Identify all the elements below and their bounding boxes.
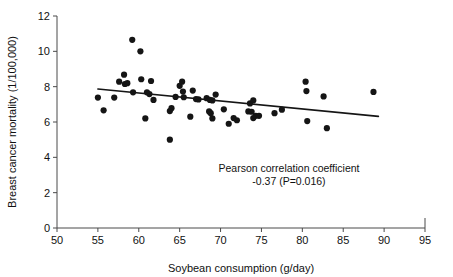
x-axis-tick-label: 85: [337, 234, 349, 246]
data-point: [180, 89, 186, 95]
x-axis-tick-label: 50: [51, 234, 63, 246]
data-point: [116, 79, 122, 85]
x-axis-tick-label: 55: [92, 234, 104, 246]
y-axis-tick-label: 0: [44, 222, 50, 234]
data-point: [121, 72, 127, 78]
x-axis-tick-label: 90: [378, 234, 390, 246]
data-point: [271, 110, 277, 116]
x-axis-tick-label: 80: [296, 234, 308, 246]
data-point: [250, 97, 256, 103]
x-axis-tick-label: 70: [214, 234, 226, 246]
scatter-plot-figure: 024681012 50556065707580859095 Soybean c…: [0, 0, 453, 277]
y-axis-tick-label: 12: [38, 10, 50, 22]
data-point: [142, 115, 148, 121]
data-point: [137, 48, 143, 54]
y-axis-tick-label: 6: [44, 116, 50, 128]
data-point: [321, 93, 327, 99]
data-point: [208, 110, 214, 116]
y-axis-title: Breast cancer mortality (1/100,000): [6, 36, 18, 208]
x-axis-title: Soybean consumption (g/day): [168, 262, 314, 274]
data-point: [226, 121, 232, 127]
data-point: [303, 79, 309, 85]
data-point: [111, 95, 117, 101]
data-point: [209, 115, 215, 121]
pearson-annotation-line2: -0.37 (P=0.016): [252, 175, 325, 187]
x-axis-tick-label: 95: [419, 234, 431, 246]
data-point: [234, 117, 240, 123]
data-point: [256, 113, 262, 119]
data-point: [221, 106, 227, 112]
data-point: [101, 107, 107, 113]
x-axis-tick-label: 60: [133, 234, 145, 246]
data-point: [304, 118, 310, 124]
data-point: [324, 125, 330, 131]
y-axis-tick-label: 10: [38, 45, 50, 57]
data-point: [190, 87, 196, 93]
data-point: [187, 114, 193, 120]
y-axis-tick-label: 2: [44, 187, 50, 199]
data-point: [95, 95, 101, 101]
data-point: [148, 78, 154, 84]
y-axis-tick-label: 8: [44, 81, 50, 93]
data-point: [303, 88, 309, 94]
x-axis-tick-label: 75: [255, 234, 267, 246]
data-point: [124, 80, 130, 86]
data-point: [213, 92, 219, 98]
data-point: [179, 79, 185, 85]
chart-canvas: 024681012 50556065707580859095 Soybean c…: [0, 0, 453, 277]
pearson-annotation-line1: Pearson correlation coefficient: [218, 162, 359, 174]
y-axis-tick-label: 4: [44, 151, 50, 163]
data-point: [150, 97, 156, 103]
data-point: [167, 137, 173, 143]
x-axis-tick-label: 65: [174, 234, 186, 246]
data-point: [138, 76, 144, 82]
data-point: [129, 37, 135, 43]
data-point: [370, 89, 376, 95]
data-point: [168, 105, 174, 111]
